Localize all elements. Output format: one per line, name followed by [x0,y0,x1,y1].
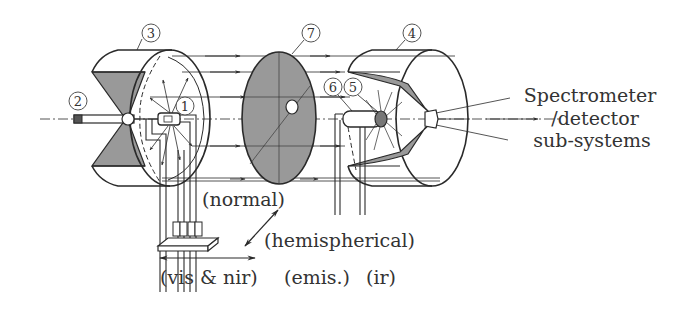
svg-text:6: 6 [329,80,337,95]
ir-label: (ir) [366,266,396,288]
component-label-1: 1 [176,97,194,115]
svg-text:2: 2 [74,94,82,109]
component-label-4: 4 [396,24,421,50]
svg-text:3: 3 [147,26,155,41]
central-aperture-disk [242,52,316,184]
output-label-line2: /detector [551,107,639,129]
emis-label: (emis.) [284,266,350,288]
svg-text:5: 5 [349,80,357,95]
normal-label: (normal) [202,188,285,210]
output-rays [436,98,538,140]
svg-text:4: 4 [408,26,416,41]
component-label-5: 5 [344,78,378,112]
fiber-connector [158,222,218,251]
diagram-canvas: 3 2 1 7 4 6 5 [0,0,691,310]
vis-nir-label: (vis & nir) [160,266,258,288]
svg-text:1: 1 [181,99,189,114]
component-label-2: 2 [69,92,87,110]
component-label-3: 3 [137,24,160,50]
output-label-line3: sub-systems [533,129,650,151]
component-label-7: 7 [292,24,320,54]
svg-text:7: 7 [307,26,315,41]
output-label-line1: Spectrometer [524,84,657,106]
input-probe [74,113,134,125]
hemispherical-label: (hemispherical) [264,229,415,251]
